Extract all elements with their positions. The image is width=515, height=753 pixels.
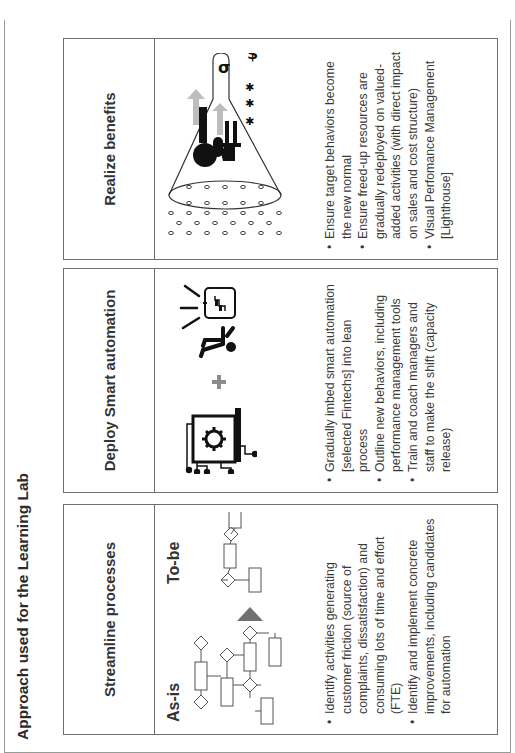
card-header: Deploy Smart automation [64,269,155,492]
presenter-board-icon [175,282,255,358]
dollar-symbol: $ [247,53,258,63]
to-be-flowchart-icon [195,512,275,594]
automation-gear-circuit-icon [185,408,257,474]
card-deploy-smart-automation: Deploy Smart automation [63,268,498,493]
bullet-item: Ensure freed-up resources are gradually … [355,49,421,249]
card-header: Realize benefits [64,39,155,259]
card-heading: Realize benefits [101,92,118,205]
card-realize-benefits: Realize benefits [63,38,498,260]
automation-visual [155,269,315,492]
as-is-flowchart-icon [191,616,303,726]
card-bullets: Gradually imbed smart automation [select… [322,279,455,482]
triangle-arrow-icon [237,607,263,621]
card-heading: Streamline processes [101,542,118,697]
bullet-item: Outline new behaviors, including perform… [372,279,405,482]
card-streamline-processes: Streamline processes As-is To-be [63,504,498,735]
svg-text:✱: ✱ [245,97,254,110]
to-be-label: To-be [165,542,183,584]
svg-text:✱: ✱ [245,115,254,128]
plus-icon [212,375,226,389]
card-bullets: Ensure target behaviors become the new n… [322,49,455,249]
funnel-growth-icon: ✱ ✱ ✱ σ $ [161,53,311,239]
card-bullets: Identify activities generating customer … [322,515,455,724]
funnel-visual: ✱ ✱ ✱ σ $ [155,39,315,259]
svg-text:✱: ✱ [245,81,254,94]
slide: Approach used for the Learning Lab Strea… [0,0,515,753]
slide-title: Approach used for the Learning Lab [14,473,32,740]
process-flow-visual: As-is To-be [155,505,315,734]
bullet-item: Train and coach managers and staff to ma… [405,279,455,482]
bullet-item: Gradually imbed smart automation [select… [322,279,372,482]
bullet-item: Identify and implement concrete improvem… [405,515,455,724]
bullet-item: Visual Perfomance Management [Lighthouse… [422,49,455,249]
bullet-item: Ensure target behaviors become the new n… [322,49,355,249]
as-is-label: As-is [165,683,183,722]
sigma-symbol: σ [218,58,230,77]
bullet-item: Identify activities generating customer … [322,515,405,724]
card-header: Streamline processes [64,505,155,734]
card-heading: Deploy Smart automation [101,290,118,472]
